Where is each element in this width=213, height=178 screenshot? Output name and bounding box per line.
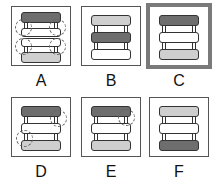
highlight-circle <box>16 130 33 147</box>
highlight-circle <box>15 19 32 36</box>
bar-light <box>159 49 199 60</box>
bar-dark <box>159 15 199 26</box>
highlight-circle <box>50 110 67 127</box>
bar-white <box>91 49 131 60</box>
highlight-circle <box>118 109 135 126</box>
bar-light <box>91 140 131 151</box>
option-label: C <box>149 72 209 90</box>
option-label: A <box>11 72 71 90</box>
option-c-frame-selected <box>146 3 212 69</box>
highlight-circle <box>15 38 32 55</box>
highlight-circle <box>49 38 66 55</box>
bar-white <box>159 123 199 134</box>
option-label: D <box>11 163 71 178</box>
bar-light <box>91 15 131 26</box>
bar-white <box>159 32 199 43</box>
bar-light <box>159 106 199 117</box>
option-label: B <box>81 72 141 90</box>
option-d-frame <box>11 97 71 157</box>
option-label: F <box>149 163 209 178</box>
option-e-frame <box>81 97 141 157</box>
bar-dark <box>159 140 199 151</box>
bar-dark <box>91 32 131 43</box>
option-b-frame <box>81 6 141 66</box>
option-label: E <box>81 163 141 178</box>
highlight-circle <box>49 19 66 36</box>
option-a-frame <box>11 6 71 66</box>
option-f-frame <box>149 97 209 157</box>
